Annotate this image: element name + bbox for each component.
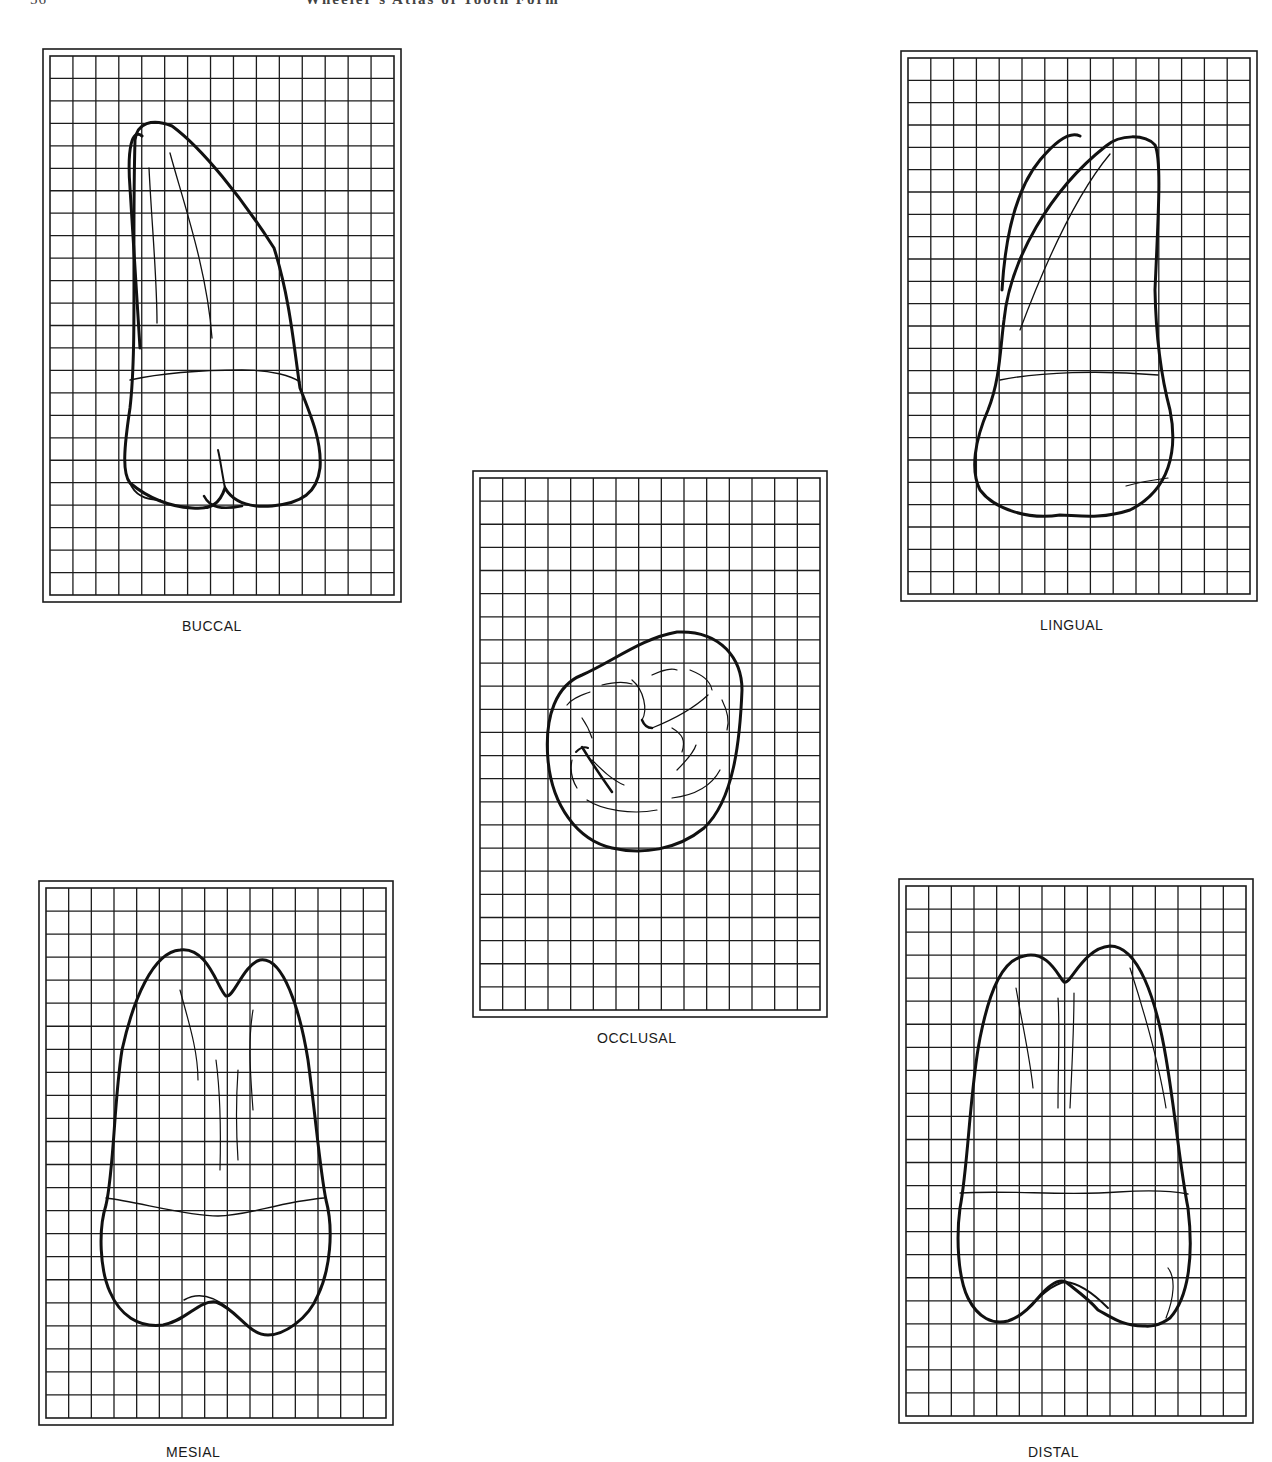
grid-lingual — [900, 50, 1258, 602]
caption-occlusal: OCCLUSAL — [597, 1030, 676, 1046]
caption-lingual: LINGUAL — [1040, 617, 1103, 633]
page-number: 56 — [30, 0, 47, 8]
panel-lingual — [900, 50, 1258, 602]
caption-mesial: MESIAL — [166, 1444, 220, 1460]
grid-mesial — [38, 880, 394, 1426]
caption-distal: DISTAL — [1028, 1444, 1079, 1460]
grid-distal — [898, 878, 1254, 1424]
panel-mesial — [38, 880, 394, 1426]
grid-occlusal — [472, 470, 828, 1018]
tooth-outline-buccal — [125, 122, 321, 508]
caption-buccal: BUCCAL — [182, 618, 242, 634]
panel-distal — [898, 878, 1254, 1424]
panel-buccal — [42, 48, 402, 603]
running-title: Wheeler's Atlas of Tooth Form — [305, 0, 560, 8]
tooth-outline-occlusal — [547, 632, 742, 851]
panel-occlusal — [472, 470, 828, 1018]
grid-buccal — [42, 48, 402, 603]
running-head: 56 Wheeler's Atlas of Tooth Form — [0, 0, 1272, 7]
